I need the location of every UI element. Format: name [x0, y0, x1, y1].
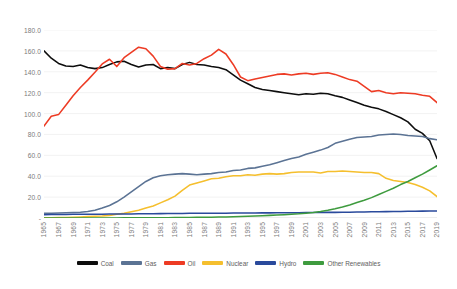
x-axis-tick-label: 1983 — [171, 222, 178, 237]
x-axis-tick-label: 1977 — [128, 222, 135, 237]
x-axis-tick-label: 2017 — [419, 222, 426, 237]
x-axis-tick-label: 1993 — [244, 222, 251, 237]
legend-item-oil[interactable]: Oil — [164, 260, 196, 267]
legend-label: Coal — [101, 260, 114, 267]
legend-label: Oil — [188, 260, 196, 267]
x-axis-tick-label: 1981 — [157, 222, 164, 237]
x-axis-tick-labels: 1965196719691971197319751977197919811983… — [0, 0, 457, 289]
legend-label: Hydro — [279, 260, 296, 267]
x-axis-tick-label: 1997 — [273, 222, 280, 237]
x-axis-tick-label: 2001 — [302, 222, 309, 237]
x-axis-tick-label: 2005 — [332, 222, 339, 237]
x-axis-tick-label: 1991 — [230, 222, 237, 237]
chart-container: 180.0160.0140.0120.0100.080.060.040.020.… — [0, 0, 457, 289]
x-axis-tick-label: 1989 — [215, 222, 222, 237]
legend-label: Nuclear — [226, 260, 248, 267]
x-axis-tick-label: 1967 — [55, 222, 62, 237]
legend-swatch-icon — [77, 261, 98, 265]
x-axis-tick-label: 1985 — [186, 222, 193, 237]
legend-swatch-icon — [202, 261, 223, 265]
legend-swatch-icon — [121, 261, 142, 265]
x-axis-tick-label: 2009 — [361, 222, 368, 237]
x-axis-tick-label: 1979 — [142, 222, 149, 237]
legend-item-other-renewables[interactable]: Other Renewables — [303, 260, 380, 267]
legend-item-nuclear[interactable]: Nuclear — [202, 260, 248, 267]
legend-item-hydro[interactable]: Hydro — [255, 260, 296, 267]
legend-swatch-icon — [255, 261, 276, 265]
x-axis-tick-label: 1995 — [259, 222, 266, 237]
legend-swatch-icon — [164, 261, 185, 265]
legend-label: Other Renewables — [327, 260, 380, 267]
x-axis-tick-label: 1969 — [70, 222, 77, 237]
x-axis-tick-label: 1975 — [113, 222, 120, 237]
legend-item-coal[interactable]: Coal — [77, 260, 114, 267]
x-axis-tick-label: 1987 — [201, 222, 208, 237]
x-axis-tick-label: 1971 — [84, 222, 91, 237]
x-axis-tick-label: 2013 — [390, 222, 397, 237]
legend-swatch-icon — [303, 261, 324, 265]
x-axis-tick-label: 2007 — [346, 222, 353, 237]
x-axis-tick-label: 2011 — [375, 222, 382, 237]
legend-label: Gas — [145, 260, 157, 267]
x-axis-tick-label: 2015 — [404, 222, 411, 237]
legend-item-gas[interactable]: Gas — [121, 260, 157, 267]
x-axis-tick-label: 1965 — [40, 222, 47, 237]
x-axis-tick-label: 2003 — [317, 222, 324, 237]
chart-legend: CoalGasOilNuclearHydroOther Renewables — [0, 256, 457, 270]
x-axis-tick-label: 2019 — [433, 222, 440, 237]
x-axis-tick-label: 1973 — [99, 222, 106, 237]
x-axis-tick-label: 1999 — [288, 222, 295, 237]
